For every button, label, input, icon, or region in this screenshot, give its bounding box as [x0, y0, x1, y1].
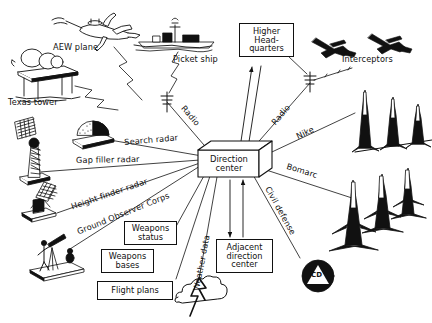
direction-center-label: Direction center	[198, 155, 260, 174]
height-finder-radar-icon	[22, 182, 57, 222]
connector-hq-to-mast	[288, 56, 307, 74]
picket-ship-icon	[134, 18, 214, 52]
diagram-canvas: AEW plane Picket ship Texas tower Interc…	[0, 0, 432, 323]
box-weapons-status: Weapons status	[124, 221, 177, 245]
box-flight-plans: Flight plans	[97, 281, 173, 300]
box-higher-headquarters: Higher Head- quarters	[239, 23, 294, 57]
adjacent-dc-line3: center	[227, 260, 263, 269]
label-interceptors: Interceptors	[342, 55, 393, 64]
search-radar-icon	[73, 121, 114, 149]
nike-missile-battery-icon	[352, 90, 432, 152]
radio-mast-left-icon	[161, 92, 173, 112]
box-adjacent-direction-center: Adjacent direction center	[216, 239, 273, 273]
zigzag-texas-tower	[75, 86, 118, 110]
adjacent-dc-arrows	[230, 180, 243, 237]
label-texas-tower: Texas tower	[8, 98, 58, 107]
weapons-bases-line2: bases	[109, 261, 146, 270]
direction-center-label-line2: center	[198, 164, 260, 173]
label-aew-plane: AEW plane	[53, 43, 98, 52]
ground-observer-icon	[30, 234, 84, 281]
radio-mast-right-icon	[304, 72, 316, 92]
box-weapons-bases: Weapons bases	[101, 249, 154, 273]
zigzag-aew-plane	[114, 47, 142, 100]
civil-defense-badge-text: CD	[311, 272, 322, 279]
higher-hq-arrows	[240, 66, 261, 148]
connector-weapons-status	[173, 174, 205, 232]
interceptor-datalink	[314, 67, 352, 80]
texas-tower-icon	[11, 49, 80, 102]
radio-zigzags	[75, 47, 179, 110]
weapons-status-line2: status	[132, 233, 169, 242]
label-gap-filler-radar: Gap filler radar	[76, 155, 140, 165]
label-picket-ship: Picket ship	[173, 55, 218, 64]
gap-filler-radar-icon	[15, 117, 50, 185]
higher-hq-line3: quarters	[249, 44, 284, 53]
bomarc-missile-battery-icon	[329, 168, 426, 251]
flight-plans-line1: Flight plans	[111, 286, 158, 295]
